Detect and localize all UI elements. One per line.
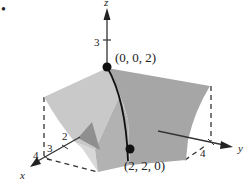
x-tick-3: 3 [47, 142, 53, 154]
x-tick-2: 2 [62, 130, 68, 142]
x-tick-4: 4 [33, 149, 39, 161]
z-axis [103, 8, 111, 67]
z-axis-label: z [103, 0, 109, 8]
3d-surface-diagram: • z 3 x 2 3 4 [0, 0, 251, 190]
point-label-0-0-2: (0, 0, 2) [115, 50, 156, 65]
y-axis-label: y [237, 142, 243, 154]
y-tick-4: 4 [200, 147, 206, 159]
point-2-2-0 [126, 145, 135, 154]
z-tick-3: 3 [94, 36, 100, 48]
bullet-marker: • [1, 2, 6, 17]
point-label-2-2-0: (2, 2, 0) [124, 158, 165, 173]
point-0-0-2 [103, 63, 112, 72]
x-axis-label: x [19, 169, 25, 181]
